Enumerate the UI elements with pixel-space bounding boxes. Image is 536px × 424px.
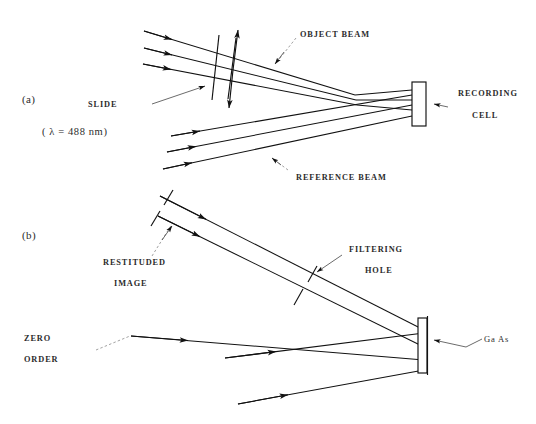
reference-beam-label: REFERENCE BEAM (296, 173, 387, 182)
ga-as-label: Ga As (484, 334, 509, 344)
ga-as-cell-body (418, 316, 428, 375)
restituted-image-leader-head (162, 226, 172, 240)
reference-beam-arrowheads (163, 131, 200, 169)
wavelength-label: ( λ = 488 nm) (42, 126, 107, 138)
zero-order-rays (131, 333, 424, 404)
zero-order-label-line1: ZERO (24, 334, 51, 343)
panel-b-group (96, 190, 482, 404)
zero-order-arrowheads (131, 336, 288, 404)
slide-label: SLIDE (88, 100, 117, 109)
recording-cell-pointer (434, 104, 448, 107)
panel-a-label: (a) (22, 93, 35, 106)
recording-cell-label-line1: RECORDING (458, 89, 518, 98)
zero-order-label-line2: ORDER (24, 355, 59, 364)
object-beam-label: OBJECT BEAM (300, 30, 370, 39)
optical-diagram: (a) ( λ = 488 nm) SLIDE OBJECT BEAM REFE… (0, 0, 536, 424)
filtering-hole-label-line1: FILTERING (349, 245, 403, 254)
figure-root: (a) ( λ = 488 nm) SLIDE OBJECT BEAM REFE… (0, 0, 536, 424)
ga-as-leader (466, 339, 482, 347)
restituted-image-aperture (151, 190, 173, 226)
restituted-image-label-line2: IMAGE (114, 279, 148, 288)
panel-a-group (143, 30, 448, 170)
filtering-hole-leader (317, 255, 342, 272)
object-beam-leader (277, 38, 296, 62)
restituted-image-label-line1: RESTITUDED (103, 258, 166, 267)
slide-leader (152, 86, 205, 104)
panel-b-label: (b) (22, 229, 36, 242)
ga-as-pointer (434, 340, 466, 347)
object-beam-leader-head (275, 52, 284, 64)
filtering-hole-aperture (294, 266, 317, 305)
object-beam-arrowheads (143, 31, 172, 69)
recording-cell-body (412, 82, 426, 126)
object-beam-rays (143, 31, 357, 105)
filtering-hole-label-line2: HOLE (365, 266, 393, 275)
reference-beam-leader-head (272, 158, 281, 165)
zero-order-leader (96, 336, 130, 350)
recording-cell-label-line2: CELL (472, 111, 498, 120)
